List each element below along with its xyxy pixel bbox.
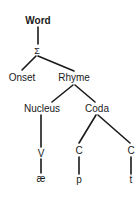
edge-coda-c2 — [98, 115, 130, 143]
tree-labels: Word Σ Onset Rhyme Nucleus Coda V C C æ … — [9, 15, 135, 185]
node-syllable: Σ — [34, 46, 40, 56]
node-v-slot: V — [38, 148, 45, 159]
segment-ae: æ — [37, 173, 46, 184]
segment-t: t — [130, 174, 133, 185]
node-c-slot-1: C — [75, 145, 82, 156]
node-c-slot-2: C — [127, 145, 134, 156]
node-rhyme: Rhyme — [58, 72, 90, 83]
edge-rhyme-nucleus — [52, 85, 73, 102]
edge-rhyme-coda — [75, 85, 95, 102]
node-onset: Onset — [9, 72, 36, 83]
segment-p: p — [76, 174, 82, 185]
node-coda: Coda — [85, 103, 109, 114]
edge-syllable-onset — [22, 56, 36, 70]
edge-coda-c1 — [79, 115, 96, 143]
node-word: Word — [25, 15, 50, 26]
node-nucleus: Nucleus — [24, 103, 60, 114]
syllable-tree-diagram: Word Σ Onset Rhyme Nucleus Coda V C C æ … — [0, 0, 136, 200]
edge-syllable-rhyme — [38, 56, 74, 71]
